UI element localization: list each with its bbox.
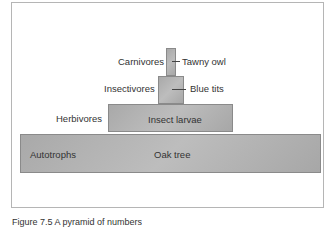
figure-caption: Figure 7.5 A pyramid of numbers <box>12 217 142 230</box>
pyramid-bar-carnivores <box>166 48 176 76</box>
label-organism-tawny-owl: Tawny owl <box>182 56 226 67</box>
leader-line-tawny-owl <box>172 61 180 62</box>
label-trophic-insectivores: Insectivores <box>104 83 155 94</box>
label-organism-blue-tits: Blue tits <box>190 83 224 94</box>
label-trophic-carnivores: Carnivores <box>118 56 164 67</box>
pyramid-bar-insectivores <box>158 76 184 104</box>
label-trophic-herbivores: Herbivores <box>56 113 102 124</box>
label-trophic-autotrophs: Autotrophs <box>30 149 76 160</box>
label-organism-insect-larvae: Insect larvae <box>148 114 202 125</box>
leader-line-blue-tits <box>172 89 186 90</box>
label-organism-oak-tree: Oak tree <box>154 149 190 160</box>
